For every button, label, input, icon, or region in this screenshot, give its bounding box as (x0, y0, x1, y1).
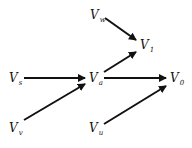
node-v1: V1 (140, 39, 154, 54)
node-v0-sub: 0 (180, 79, 184, 87)
diagram-canvas: Vw V1 Vs Va V0 Vv Vu (0, 0, 192, 148)
node-va-sub: a (99, 79, 103, 87)
node-vu-base: V (89, 121, 98, 135)
edge-vw-v1 (105, 18, 136, 40)
node-vu-sub: u (99, 129, 104, 137)
edge-va-v1 (104, 52, 136, 72)
node-v0: V0 (170, 72, 184, 87)
edge-vu-v0 (104, 86, 166, 124)
node-vv: Vv (9, 122, 23, 137)
node-v1-base: V (140, 38, 149, 52)
node-va-base: V (89, 71, 98, 85)
node-vv-base: V (9, 121, 18, 135)
node-v1-sub: 1 (150, 46, 154, 54)
node-va: Va (89, 72, 103, 87)
node-vv-sub: v (19, 129, 23, 137)
node-vw: Vw (90, 9, 106, 24)
node-vu: Vu (89, 122, 103, 137)
node-vs-base: V (9, 71, 18, 85)
node-v0-base: V (170, 71, 179, 85)
node-vs: Vs (9, 72, 22, 87)
node-vs-sub: s (19, 79, 23, 87)
node-vw-sub: w (100, 16, 106, 24)
edge-vv-va (24, 84, 85, 120)
node-vw-base: V (90, 8, 99, 22)
